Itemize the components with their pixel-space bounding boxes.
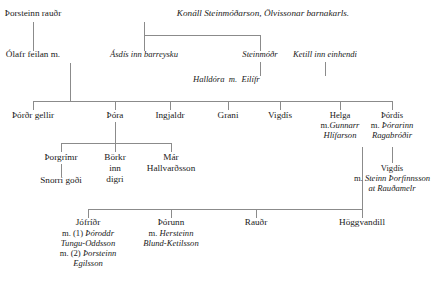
node-thordis: Þórdís m. Þórarinn Ragabróðir bbox=[371, 110, 414, 140]
connector-drop-thordis bbox=[392, 101, 393, 110]
connector-drop-thorgrimr bbox=[61, 143, 62, 152]
connector-drop-ingjaldr bbox=[170, 101, 171, 110]
node-konall: Konáll Steinmóðarson, Ölvissonar barnaka… bbox=[177, 8, 349, 19]
connector-drop-borkr bbox=[115, 143, 116, 152]
connector-drop-helga bbox=[340, 101, 341, 110]
connector-thordis-to-vigdis bbox=[392, 147, 393, 163]
node-jofridr: Jófríðr m. (1) Þóroddr Tungu-Oddsson m. … bbox=[60, 217, 117, 268]
node-ingjaldr: Ingjaldr bbox=[155, 110, 184, 121]
node-vigdis-gen4: Vigdís m. Steinn Þorfinnsson at Rauðamel… bbox=[354, 163, 430, 193]
node-snorri-godi: Snorri goði bbox=[40, 175, 82, 186]
node-thora: Þóra bbox=[107, 110, 124, 121]
connector-ketill-to-eilifr bbox=[325, 62, 326, 76]
connector-siblings-bar bbox=[33, 101, 392, 102]
connector-drop-thora bbox=[115, 101, 116, 110]
node-halldora-eilifr: Halldóra m. Eilífr bbox=[193, 74, 260, 84]
node-hoggvandill: Höggvandill bbox=[339, 217, 385, 228]
connector-konall-stem bbox=[144, 22, 145, 35]
node-mar: Már Hallvarðsson bbox=[147, 152, 195, 174]
node-vigdis-gen3: Vigdís bbox=[268, 110, 292, 121]
connector-drop-thordr bbox=[33, 101, 34, 110]
node-borkr: Börkr inn digri bbox=[104, 152, 125, 185]
node-grani: Grani bbox=[218, 110, 239, 121]
node-thorsteinn-raudr: Þorsteinn rauðr bbox=[5, 8, 61, 19]
connector-thora-children-bar bbox=[61, 143, 171, 144]
node-asdis: Ásdís inn barreysku bbox=[110, 49, 178, 59]
genealogy-chart: Þorsteinn rauðr Konáll Steinmóðarson, Öl… bbox=[0, 0, 440, 294]
connector-drop-vigdis bbox=[280, 101, 281, 110]
connector-thora-stem bbox=[115, 122, 116, 143]
node-thorunn: Þórunn m. Hersteinn Blund-Ketilsson bbox=[143, 217, 198, 248]
node-olafr-feilan: Ólafr feilan m. bbox=[6, 49, 60, 60]
connector-bottom-bar bbox=[88, 209, 362, 210]
node-helga: Helga m.Gunnarr Hlífarson bbox=[321, 110, 360, 140]
node-steinmodr: Steinmóðr bbox=[242, 49, 277, 59]
connector-steinmodr-to-halldora bbox=[260, 62, 261, 76]
node-thorgrimr: Þorgrímr bbox=[44, 152, 77, 163]
connector-thorsteinn-to-olafr bbox=[33, 22, 34, 51]
connector-olafr-stem bbox=[70, 63, 71, 101]
connector-drop-mar bbox=[171, 143, 172, 152]
connector-drop-grani bbox=[228, 101, 229, 110]
node-thordr-gellir: Þórðr gellir bbox=[12, 110, 54, 121]
node-ketill: Ketill inn einhendi bbox=[293, 49, 357, 59]
connector-konall-bar bbox=[144, 35, 260, 36]
node-raudr: Rauðr bbox=[245, 217, 267, 228]
